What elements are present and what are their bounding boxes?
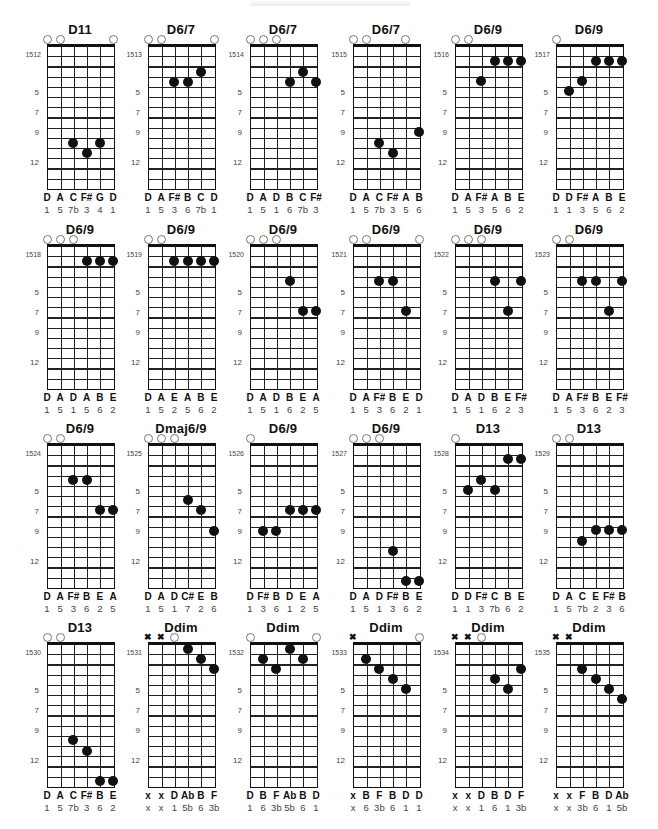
fret-line (48, 766, 114, 767)
fret-number-label: 5 (526, 88, 548, 97)
fret-line (354, 537, 420, 538)
string-note: D (269, 192, 283, 203)
finger-dot (298, 67, 308, 77)
string-interval: 5b (283, 802, 297, 813)
string-interval: 5 (359, 603, 373, 614)
fret-line (149, 87, 215, 88)
fret-line (557, 368, 623, 369)
fret-line (456, 578, 522, 579)
string-line (367, 46, 368, 189)
string-interval: 6 (359, 802, 373, 813)
string-note: D (399, 790, 413, 801)
fret-line (48, 297, 114, 298)
chord-number: 1514 (222, 51, 244, 58)
string-line (609, 46, 610, 189)
muted-string-icon: ✖ (143, 632, 153, 642)
string-line (508, 46, 509, 189)
string-line (406, 644, 407, 787)
fret-line (251, 338, 317, 339)
string-note: D (448, 591, 462, 602)
chord-diagram-1531: Ddim153157912✖✖xxDAbBFxx15b63b (114, 620, 214, 820)
fret-number-label: 7 (17, 108, 39, 117)
string-interval: 7b (488, 603, 502, 614)
string-interval: 5b (181, 802, 195, 813)
fret-line (557, 107, 623, 108)
fret-line (251, 158, 317, 159)
string-interval: 5 (256, 404, 270, 415)
string-line (264, 246, 265, 389)
open-string-icon (565, 434, 574, 443)
finger-dot (285, 77, 295, 87)
string-line (61, 246, 62, 389)
open-string-icon (144, 35, 153, 44)
fret-line (251, 77, 317, 78)
fret-line (149, 117, 215, 118)
finger-dot (388, 148, 398, 158)
fret-line (48, 277, 114, 278)
string-line (87, 46, 88, 189)
string-note: F# (386, 192, 400, 203)
fret-line (354, 338, 420, 339)
fret-line (251, 695, 317, 696)
nut (556, 642, 624, 645)
finger-dot (95, 256, 105, 266)
fret-line (149, 766, 215, 767)
fret-line (354, 287, 420, 288)
string-line (596, 46, 597, 189)
finger-dot (401, 576, 411, 586)
open-string-icon (552, 235, 561, 244)
fret-line (251, 117, 317, 118)
fret-line (48, 158, 114, 159)
string-interval: 2 (296, 404, 310, 415)
open-string-icon (362, 434, 371, 443)
chord-number: 1522 (427, 251, 449, 258)
finger-dot (591, 276, 601, 286)
string-note: D (40, 392, 54, 403)
chord-number: 1530 (19, 649, 41, 656)
string-line (277, 46, 278, 189)
string-note: D (141, 392, 155, 403)
string-interval: 5 (589, 204, 603, 215)
string-note: A (256, 392, 270, 403)
string-interval: 6 (269, 603, 283, 614)
chord-number: 1518 (19, 251, 41, 258)
string-note: A (359, 192, 373, 203)
open-string-icon (144, 434, 153, 443)
finger-dot (401, 306, 411, 316)
fret-line (149, 476, 215, 477)
string-interval: 4 (93, 204, 107, 215)
string-line (482, 46, 483, 189)
string-note: E (194, 591, 208, 602)
nut (47, 443, 115, 446)
fret-line (251, 317, 317, 318)
fret-line (456, 168, 522, 169)
finger-dot (95, 138, 105, 148)
fret-line (354, 256, 420, 257)
string-interval: 1 (461, 603, 475, 614)
fret-number-label: 12 (526, 158, 548, 167)
string-note: B (256, 790, 270, 801)
fret-line (48, 128, 114, 129)
string-note: B (194, 392, 208, 403)
finger-dot (183, 644, 193, 654)
fret-line (149, 128, 215, 129)
fret-line (456, 368, 522, 369)
string-interval: 6 (589, 404, 603, 415)
muted-string-icon: ✖ (450, 632, 460, 642)
fret-line (251, 578, 317, 579)
open-string-icon (477, 235, 486, 244)
fret-line (557, 567, 623, 568)
fret-line (48, 715, 114, 716)
fret-line (149, 358, 215, 359)
fret-line (48, 307, 114, 308)
string-interval: 5 (562, 404, 576, 415)
string-note: B (488, 790, 502, 801)
string-interval: 1 (474, 404, 488, 415)
fret-line (48, 117, 114, 118)
fret-line (48, 567, 114, 568)
string-interval: 6 (602, 204, 616, 215)
string-note: A (154, 392, 168, 403)
finger-dot (82, 256, 92, 266)
finger-dot (591, 674, 601, 684)
fretboard (47, 445, 115, 589)
